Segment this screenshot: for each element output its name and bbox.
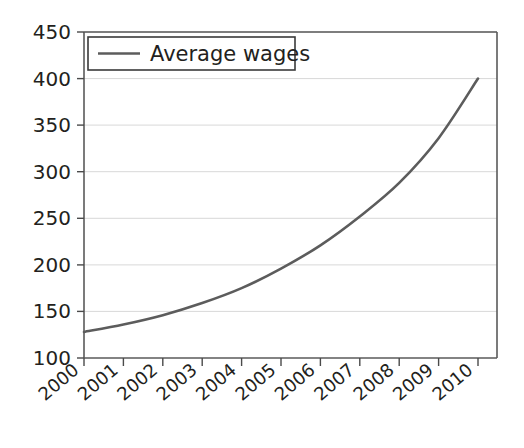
legend[interactable]: Average wages: [88, 37, 310, 70]
x-axis-tick-labels: 2000 2001 2002 2003 2004 2005 2006 2007 …: [34, 359, 477, 405]
x-tick-label: 2003: [152, 359, 201, 405]
x-tick-label: 2009: [389, 359, 438, 405]
legend-label-average-wages: Average wages: [150, 42, 310, 66]
y-tick-label: 350: [33, 113, 71, 137]
y-tick-label: 450: [33, 20, 71, 44]
y-axis-ticks: [77, 32, 84, 358]
x-tick-label: 2002: [113, 359, 162, 405]
x-tick-label: 2001: [73, 359, 122, 405]
x-tick-label: 2007: [310, 359, 359, 405]
y-tick-label: 300: [33, 160, 71, 184]
x-tick-label: 2008: [349, 359, 398, 405]
x-tick-label: 2005: [231, 359, 280, 405]
x-tick-label: 2004: [192, 359, 241, 405]
x-tick-label: 2010: [428, 359, 477, 405]
y-tick-label: 200: [33, 253, 71, 277]
plot-area-background: [84, 32, 497, 358]
y-tick-label: 400: [33, 67, 71, 91]
y-tick-label: 150: [33, 299, 71, 323]
y-tick-label: 250: [33, 206, 71, 230]
chart-figure: 450 400 350 300 250 200 150 100 2000: [0, 0, 524, 448]
y-axis-tick-labels: 450 400 350 300 250 200 150 100: [33, 20, 71, 370]
x-tick-label: 2006: [270, 359, 319, 405]
line-chart: 450 400 350 300 250 200 150 100 2000: [0, 0, 524, 448]
